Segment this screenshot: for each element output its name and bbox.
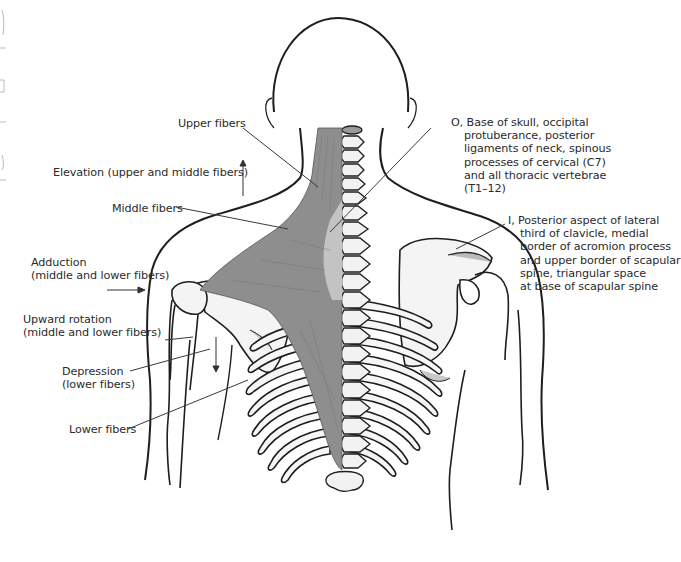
label-origin: O, Base of skull, occipital protuberance… xyxy=(451,116,611,195)
label-insertion-line6: at base of scapular spine xyxy=(508,280,681,293)
head-outline xyxy=(266,18,416,128)
label-adduction-line2: (middle and lower fibers) xyxy=(31,269,169,282)
label-upward-rotation: Upward rotation (middle and lower fibers… xyxy=(23,313,161,339)
label-upward-rotation-line1: Upward rotation xyxy=(23,313,161,326)
label-upper-fibers: Upper fibers xyxy=(178,117,246,130)
label-origin-line4: processes of cervical (C7) xyxy=(451,156,611,169)
label-origin-line2: protuberance, posterior xyxy=(451,129,611,142)
label-lower-fibers: Lower fibers xyxy=(69,423,136,436)
label-insertion-line2: third of clavicle, medial xyxy=(508,227,681,240)
margin-artifacts xyxy=(0,10,6,180)
label-origin-line3: ligaments of neck, spinous xyxy=(451,142,611,155)
label-adduction-line1: Adduction xyxy=(31,256,169,269)
label-elevation: Elevation (upper and middle fibers) xyxy=(53,166,248,179)
label-depression-line2: (lower fibers) xyxy=(62,378,135,391)
label-origin-line1: O, Base of skull, occipital xyxy=(451,116,611,129)
label-insertion-line4: and upper border of scapular xyxy=(508,254,681,267)
label-adduction: Adduction (middle and lower fibers) xyxy=(31,256,169,282)
label-insertion-line3: border of acromion process xyxy=(508,240,681,253)
label-upward-rotation-line2: (middle and lower fibers) xyxy=(23,326,161,339)
label-origin-line5: and all thoracic vertebrae xyxy=(451,169,611,182)
label-depression: Depression (lower fibers) xyxy=(62,365,135,391)
label-insertion: I, Posterior aspect of lateral third of … xyxy=(508,214,681,293)
label-depression-line1: Depression xyxy=(62,365,135,378)
label-insertion-line5: spine, triangular space xyxy=(508,267,681,280)
label-insertion-line1: I, Posterior aspect of lateral xyxy=(508,214,681,227)
label-origin-line6: (T1–12) xyxy=(451,182,611,195)
label-middle-fibers: Middle fibers xyxy=(112,202,183,215)
